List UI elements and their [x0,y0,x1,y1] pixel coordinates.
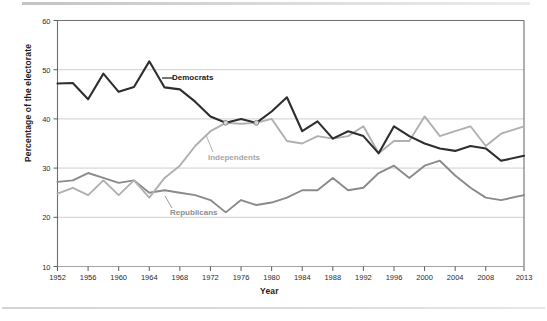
x-tick-label: 1996 [386,273,403,282]
x-tick-label: 2008 [477,273,494,282]
x-tick-label: 2004 [447,273,464,282]
chart-page: Percentage of the electorate Year 195219… [0,0,547,321]
x-tick-label: 1956 [80,273,97,282]
x-tick-label: 1964 [141,273,158,282]
x-tick-label: 1968 [172,273,189,282]
series-label-independents: Independents [208,153,260,162]
y-axis-title: Percentage of the electorate [23,23,33,183]
x-tick-label: 1976 [233,273,250,282]
x-tick-label: 1988 [324,273,341,282]
series-label-republicans: Republicans [170,208,218,217]
y-tick-label: 50 [35,65,51,74]
x-tick-label: 1960 [110,273,127,282]
y-tick-label: 60 [35,16,51,25]
x-tick-label: 1972 [202,273,219,282]
x-tick-label: 2000 [416,273,433,282]
y-tick-label: 10 [35,262,51,271]
bottom-divider [2,307,545,309]
plot-background [58,21,525,267]
x-tick-label: 1992 [355,273,372,282]
x-tick-label: 1952 [49,273,66,282]
x-tick-label: 2013 [516,273,533,282]
y-tick-label: 20 [35,213,51,222]
x-tick-label: 1980 [263,273,280,282]
y-tick-label: 40 [35,114,51,123]
x-axis-title: Year [260,286,279,296]
x-tick-label: 1984 [294,273,311,282]
y-tick-label: 30 [35,164,51,173]
series-label-democrats: Democrats [172,73,213,82]
